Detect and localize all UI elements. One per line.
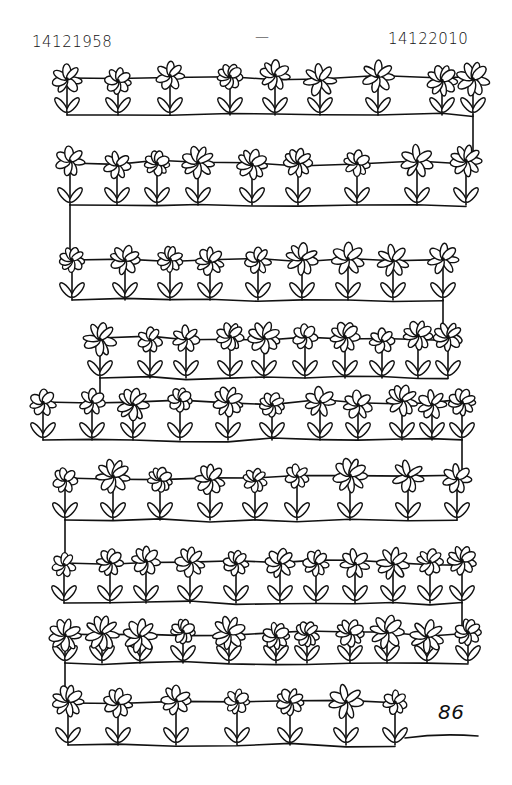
flower bbox=[343, 149, 371, 205]
flower bbox=[236, 148, 268, 205]
flower bbox=[247, 321, 280, 378]
flower bbox=[381, 690, 409, 745]
flower bbox=[131, 546, 161, 603]
flower bbox=[161, 685, 191, 745]
flower bbox=[283, 463, 311, 520]
flower bbox=[304, 386, 335, 440]
date-separator: — bbox=[255, 28, 270, 44]
page-number: 86 bbox=[438, 700, 464, 724]
flower bbox=[48, 618, 81, 663]
flower bbox=[172, 325, 201, 378]
flower bbox=[196, 247, 225, 300]
flower bbox=[78, 388, 106, 440]
flower bbox=[103, 151, 132, 205]
flower bbox=[410, 619, 445, 663]
flower-drawing bbox=[0, 0, 512, 785]
flower bbox=[291, 324, 319, 378]
flower bbox=[417, 389, 447, 440]
flower bbox=[340, 548, 371, 603]
flower-row bbox=[51, 60, 490, 117]
flower bbox=[426, 64, 458, 115]
flower bbox=[376, 244, 409, 300]
flower bbox=[195, 464, 226, 520]
flower bbox=[293, 621, 321, 663]
flower bbox=[447, 545, 477, 603]
flower-row bbox=[55, 144, 482, 207]
flower bbox=[223, 688, 251, 745]
flower bbox=[392, 459, 425, 520]
flower bbox=[343, 390, 374, 440]
flower bbox=[83, 322, 118, 378]
flower bbox=[216, 322, 245, 378]
flower bbox=[84, 615, 119, 663]
flower-row bbox=[29, 384, 476, 442]
flower bbox=[175, 547, 206, 603]
flower bbox=[104, 67, 132, 115]
flower bbox=[52, 685, 85, 745]
flower bbox=[96, 459, 131, 520]
flower bbox=[331, 242, 365, 300]
flower bbox=[328, 684, 364, 745]
flower bbox=[456, 62, 491, 115]
flower bbox=[285, 242, 318, 300]
flower bbox=[442, 463, 472, 520]
flower bbox=[264, 548, 295, 603]
flower bbox=[58, 246, 86, 300]
flower-row bbox=[48, 614, 482, 664]
flower bbox=[155, 61, 185, 115]
flower bbox=[110, 244, 141, 300]
flower bbox=[156, 246, 184, 300]
flower bbox=[262, 622, 290, 663]
flower-row bbox=[51, 457, 472, 522]
flower bbox=[50, 552, 78, 603]
end-date-label: 14122010 bbox=[388, 30, 468, 48]
flower bbox=[386, 384, 418, 440]
flower bbox=[303, 63, 337, 115]
flower bbox=[454, 618, 482, 663]
flower-rows bbox=[29, 60, 491, 747]
flower bbox=[241, 467, 269, 520]
flower bbox=[116, 387, 149, 440]
flower bbox=[169, 619, 197, 663]
start-date-label: 14121958 bbox=[32, 33, 112, 51]
flower bbox=[330, 321, 361, 378]
flower bbox=[136, 327, 164, 378]
flower bbox=[51, 64, 82, 115]
flower bbox=[55, 146, 86, 205]
flower bbox=[403, 320, 433, 378]
flower-row bbox=[58, 242, 459, 301]
flower-row bbox=[83, 320, 464, 380]
flower bbox=[122, 618, 157, 663]
flower bbox=[258, 391, 286, 440]
flower bbox=[222, 550, 250, 603]
flower bbox=[433, 322, 463, 378]
flower bbox=[244, 247, 272, 300]
flower bbox=[212, 386, 244, 440]
flower bbox=[29, 389, 57, 440]
flower bbox=[332, 457, 368, 520]
flower bbox=[259, 60, 291, 115]
flower bbox=[416, 548, 444, 603]
flower bbox=[448, 388, 477, 440]
flower bbox=[302, 550, 330, 603]
flower bbox=[427, 243, 459, 300]
flower bbox=[450, 144, 483, 205]
flower bbox=[336, 618, 365, 663]
flower bbox=[51, 467, 79, 520]
flower bbox=[181, 145, 215, 205]
flower bbox=[361, 60, 394, 115]
flower bbox=[369, 614, 404, 663]
flower bbox=[275, 687, 304, 745]
flower-row bbox=[52, 684, 410, 747]
flower bbox=[400, 144, 434, 205]
flower-row bbox=[50, 545, 477, 604]
flower bbox=[146, 466, 174, 520]
flower bbox=[283, 148, 312, 205]
flower bbox=[143, 150, 171, 205]
flower bbox=[212, 616, 246, 663]
flower bbox=[368, 328, 396, 378]
flower bbox=[216, 63, 244, 115]
flower bbox=[166, 387, 194, 440]
flower bbox=[96, 548, 124, 603]
flower bbox=[376, 547, 409, 603]
